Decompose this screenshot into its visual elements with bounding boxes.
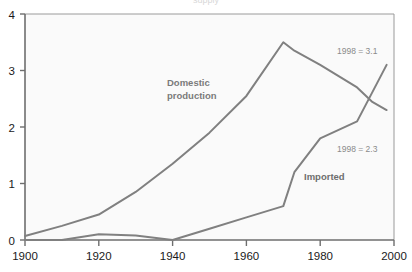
series-label-domestic-line1: Domestic (167, 77, 210, 88)
y-tick-label-4: 4 (9, 9, 16, 21)
x-tick-label-1960: 1960 (234, 250, 260, 262)
annotation-domestic-1998: 1998 = 2.3 (337, 144, 378, 154)
x-tick-label-1900: 1900 (12, 250, 38, 262)
y-tick-label-2: 2 (9, 122, 15, 134)
y-tick-label-0: 0 (9, 235, 15, 247)
series-label-imported: Imported (304, 171, 345, 182)
x-tick-label-2000: 2000 (381, 250, 407, 262)
x-tick-label-1980: 1980 (307, 250, 333, 262)
line-chart: supply 4 3 2 1 0 (0, 0, 412, 272)
y-tick-label-3: 3 (9, 65, 15, 77)
series-label-domestic-line2: production (167, 90, 217, 101)
x-axis-ticks (25, 240, 394, 246)
x-tick-label-1940: 1940 (160, 250, 186, 262)
chart-canvas: 4 3 2 1 0 1900 1920 1940 1960 1980 2000 … (0, 0, 412, 272)
annotation-imported-1998: 1998 = 3.1 (337, 46, 378, 56)
y-tick-label-1: 1 (9, 178, 15, 190)
x-tick-label-1920: 1920 (86, 250, 112, 262)
